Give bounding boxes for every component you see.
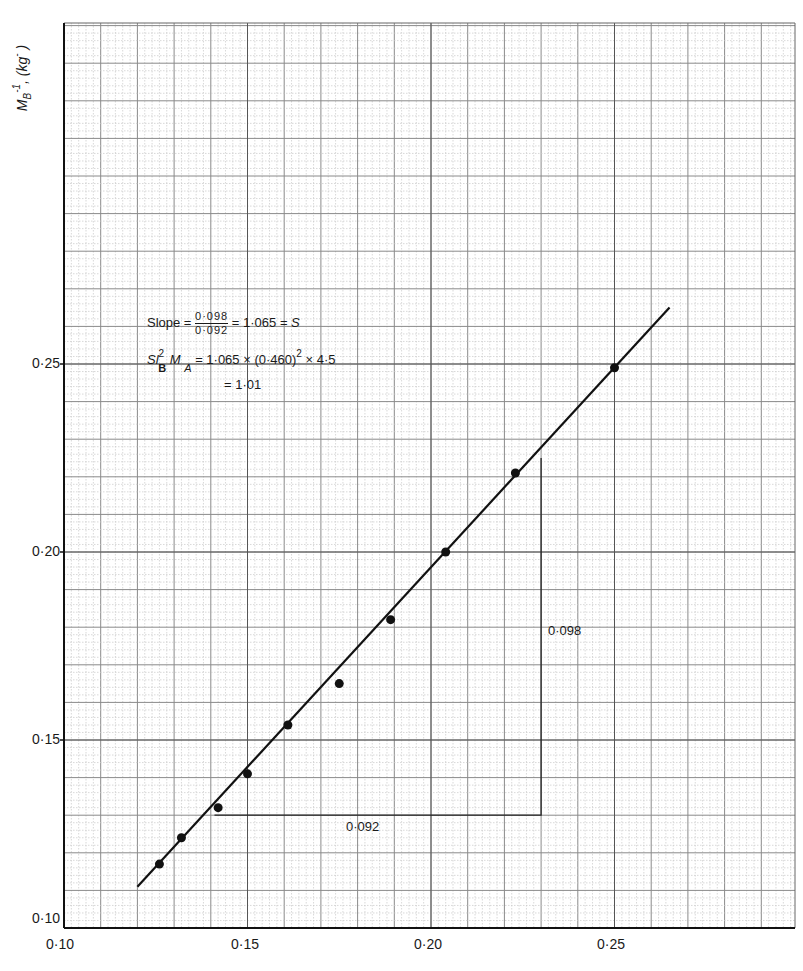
slope-prefix: Slope = <box>147 315 195 330</box>
data-point <box>511 469 520 478</box>
equation-annotation: Sl2B M A = 1·065 × (0·460)2 × 4·5 <box>147 352 335 367</box>
x-tick-0.25: 0·25 <box>581 936 641 952</box>
data-point <box>335 679 344 688</box>
y-tick-0.10: 0·10 <box>10 910 60 926</box>
data-point <box>283 720 292 729</box>
y-tick-0.15: 0·15 <box>10 731 60 747</box>
y-label-unit: , (kg <box>14 57 30 84</box>
eq-sub-a: A <box>184 362 191 374</box>
eq-sup: 2 <box>159 348 165 359</box>
eq-right-sup: 2 <box>296 348 302 359</box>
slope-denominator: 0·092 <box>195 324 228 337</box>
x-tick-0.20: 0·20 <box>398 936 458 952</box>
slope-triangle <box>214 458 541 815</box>
slope-symbol: S <box>291 315 300 330</box>
y-label-superscript: -1 <box>11 84 22 93</box>
result-annotation: = 1·01 <box>224 377 261 392</box>
data-point <box>386 615 395 624</box>
x-tick-0.10: 0·10 <box>30 936 90 952</box>
data-point <box>610 363 619 372</box>
slope-fraction: 0·0980·092 <box>195 310 228 337</box>
eq-S: S <box>147 352 156 367</box>
slope-numerator: 0·098 <box>195 310 228 324</box>
eq-sub-b: B <box>158 362 166 374</box>
eq-right: = 1·065 × (0·460) <box>192 352 297 367</box>
y-label-unit-sup: - <box>11 53 22 56</box>
data-point <box>155 860 164 869</box>
slope-result: = 1·065 = <box>228 315 291 330</box>
chart-plot-area <box>0 0 803 971</box>
data-point <box>243 769 252 778</box>
data-point <box>441 548 450 557</box>
dy-label: 0·098 <box>548 623 581 638</box>
data-point <box>214 803 223 812</box>
y-label-subscript: B <box>22 93 33 100</box>
y-label-symbol: M <box>14 100 30 112</box>
eq-right-tail: × 4·5 <box>302 352 336 367</box>
dx-label: 0·092 <box>346 819 379 834</box>
x-tick-0.15: 0·15 <box>215 936 275 952</box>
slope-annotation: Slope = 0·0980·092 = 1·065 = S <box>147 310 300 337</box>
data-point <box>177 833 186 842</box>
y-tick-0.20: 0·20 <box>10 543 60 559</box>
y-tick-0.25: 0·25 <box>10 355 60 371</box>
eq-M: M <box>170 352 181 367</box>
y-axis-label: MB-1, (kg- ) <box>2 20 32 140</box>
